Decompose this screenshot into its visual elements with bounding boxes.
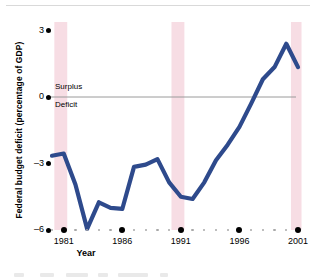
- axis-dot-major: [295, 227, 301, 233]
- annotation-surplus: Surplus: [55, 82, 82, 91]
- y-axis-tick-dot: [46, 95, 51, 100]
- y-axis-tick-dot: [46, 161, 51, 166]
- y-axis-tick-label: 3: [22, 25, 44, 35]
- axis-dot-minor: [191, 229, 193, 231]
- axis-dot-minor: [74, 229, 76, 231]
- x-axis-tick-label: 1996: [219, 236, 259, 246]
- axis-dot-minor: [109, 229, 111, 231]
- y-axis-tick-dot: [46, 28, 51, 33]
- axis-dot-minor: [227, 229, 229, 231]
- chart-figure: Federal budget deficit (percentage of GD…: [0, 0, 316, 280]
- x-axis-tick-label: 1991: [161, 236, 201, 246]
- axis-dot-minor: [156, 229, 158, 231]
- x-axis-title: Year: [56, 248, 116, 258]
- x-axis-tick-label: 1981: [44, 236, 84, 246]
- axis-dot-minor: [145, 229, 147, 231]
- recession-band: [54, 22, 67, 230]
- x-axis-tick-label: 2001: [278, 236, 316, 246]
- y-axis-tick-label: 0: [22, 91, 44, 101]
- axis-dot-major: [61, 227, 67, 233]
- axis-dot-minor: [273, 229, 275, 231]
- clipped-caption-fragment: [14, 272, 204, 278]
- annotation-deficit: Deficit: [55, 100, 77, 109]
- y-axis-tick-label: –3: [22, 158, 44, 168]
- y-axis-tick-label: –6: [22, 224, 44, 234]
- axis-dot-major: [178, 227, 184, 233]
- x-axis-tick-label: 1986: [102, 236, 142, 246]
